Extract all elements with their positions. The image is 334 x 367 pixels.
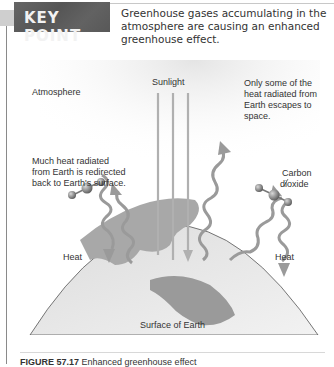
label-escapes-3: Earth escapes to [244,100,312,111]
label-redirected-1: Much heat radiated [32,156,109,167]
key-point-banner: KEY POINT [14,2,110,32]
label-sunlight: Sunlight [152,77,185,88]
page-margin-rule [6,12,7,364]
key-point-label: KEY POINT [24,9,110,45]
label-redirected-2: from Earth is redirected [32,167,126,178]
figure-caption-text: Enhanced greenhouse effect [82,357,197,367]
label-redirected-3: back to Earth's surface. [32,178,126,189]
banner-tab [0,10,14,26]
label-co2-2: dioxide [280,179,309,190]
label-surface: Surface of Earth [140,320,205,331]
top-rule [110,3,334,4]
figure-number: FIGURE 57.17 [20,357,79,367]
label-heat-right: Heat [275,252,294,263]
figure-caption: FIGURE 57.17 Enhanced greenhouse effect [20,357,196,367]
label-escapes-1: Only some of the [244,78,312,89]
greenhouse-diagram: Atmosphere Sunlight Only some of the hea… [20,55,328,335]
label-co2-1: Carbon [282,168,312,179]
label-escapes-2: heat radiated from [244,89,317,100]
caption-rule [20,352,325,353]
label-escapes-4: space. [244,111,271,122]
label-atmosphere: Atmosphere [32,87,81,98]
label-heat-left: Heat [63,252,82,263]
key-point-text: Greenhouse gases accumulating in the atm… [121,7,329,46]
